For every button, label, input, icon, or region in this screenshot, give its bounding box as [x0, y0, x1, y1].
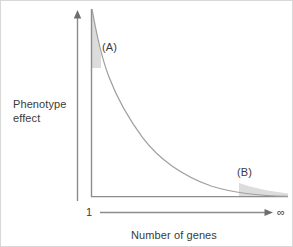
- figure-panel: Phenotypeeffect Number of genes (A) (B) …: [0, 0, 293, 247]
- y-axis-label: Phenotypeeffect: [13, 98, 79, 125]
- decay-curve: [92, 9, 288, 196]
- right-arrow-icon: [265, 209, 274, 216]
- x-axis-min-tick-label: 1: [86, 206, 92, 220]
- region-b-label: (B): [237, 166, 252, 180]
- shaded-region-b: [239, 183, 288, 196]
- up-arrow-icon: [74, 10, 81, 19]
- y-axis-label-line1: Phenotype: [13, 98, 67, 110]
- x-axis-max-tick-label: ∞: [277, 206, 285, 220]
- y-axis-label-line2: effect: [13, 112, 40, 124]
- x-axis-label: Number of genes: [94, 229, 254, 243]
- region-a-label: (A): [102, 41, 117, 55]
